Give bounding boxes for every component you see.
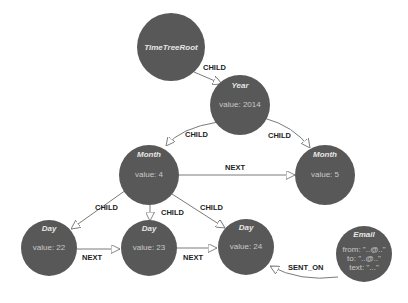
node-title: Day	[142, 224, 157, 233]
node-title: TimeTreeRoot	[144, 43, 198, 52]
edge-root-year[interactable]	[194, 72, 222, 84]
node-value: value: 24	[230, 242, 263, 251]
node-value: value: 2014	[219, 100, 261, 109]
node-email[interactable]: Email from: "..@.." to: "..@.." text: ".…	[336, 226, 392, 282]
node-title: Month	[313, 150, 337, 159]
node-month-4[interactable]: Month value: 4	[119, 145, 179, 205]
edge-label-month4-day24: CHILD	[200, 203, 223, 212]
node-title: Month	[137, 150, 161, 159]
node-day-22[interactable]: Day value: 22	[21, 220, 77, 276]
node-value: value: 23	[133, 243, 166, 252]
node-text: text: "..."	[349, 263, 379, 272]
edge-label-month4-month5: NEXT	[225, 163, 245, 172]
edge-label-day23-day24: NEXT	[183, 253, 203, 262]
node-value: value: 4	[135, 170, 164, 179]
node-day-23[interactable]: Day value: 23	[121, 220, 177, 276]
node-year[interactable]: Year value: 2014	[210, 75, 270, 135]
node-title: Day	[42, 224, 57, 233]
node-to: to: "..@.."	[347, 254, 381, 263]
edge-label-year-month5: CHILD	[268, 131, 291, 140]
edge-label-month4-day23: CHILD	[161, 208, 184, 217]
node-value: value: 5	[311, 170, 340, 179]
node-month-5[interactable]: Month value: 5	[295, 145, 355, 205]
node-timetreeroot[interactable]: TimeTreeRoot	[137, 13, 205, 81]
edge-label-email-day24: SENT_ON	[288, 263, 323, 272]
node-value: value: 22	[33, 243, 66, 252]
node-title: Email	[353, 230, 375, 239]
node-title: Year	[231, 81, 249, 90]
edge-label-day22-day23: NEXT	[82, 253, 102, 262]
edge-label-root-year: CHILD	[203, 63, 226, 72]
time-tree-diagram: CHILD CHILD CHILD NEXT CHILD CHILD CHILD…	[0, 0, 408, 303]
node-day-24[interactable]: Day value: 24	[218, 219, 274, 275]
node-from: from: "..@.."	[342, 245, 385, 254]
node-title: Day	[239, 223, 254, 232]
edge-label-month4-day22: CHILD	[95, 203, 118, 212]
edge-label-year-month4: CHILD	[185, 130, 208, 139]
